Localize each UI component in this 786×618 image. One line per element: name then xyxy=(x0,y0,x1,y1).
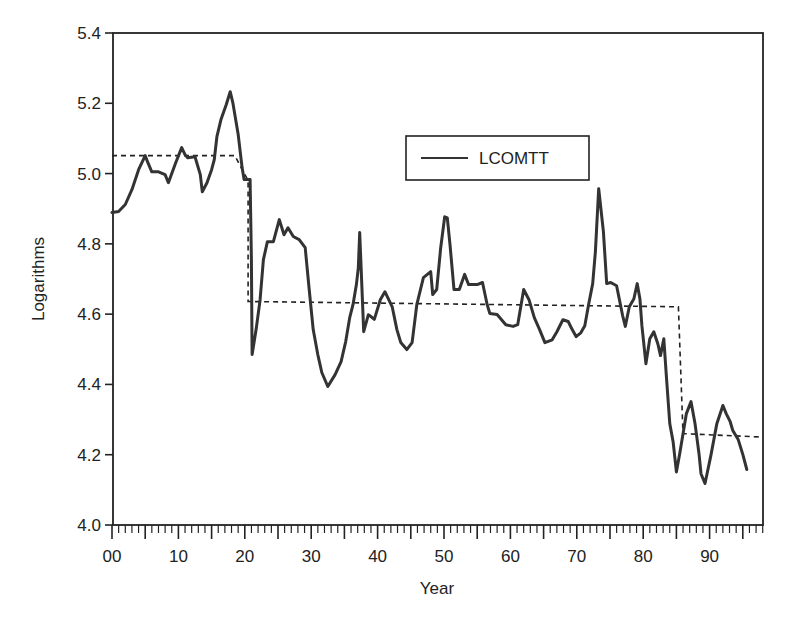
y-tick-label: 4.2 xyxy=(77,446,101,465)
x-tick-label: 70 xyxy=(567,547,586,566)
dashed-step-series xyxy=(112,156,763,438)
y-axis: 4.04.24.44.64.85.05.25.4 xyxy=(77,24,113,535)
legend-label: LCOMTT xyxy=(479,149,549,168)
y-tick-label: 4.6 xyxy=(77,305,101,324)
x-axis-title: Year xyxy=(420,579,455,598)
x-tick-label: 50 xyxy=(435,547,454,566)
x-tick-label: 80 xyxy=(634,547,653,566)
y-tick-label: 5.4 xyxy=(77,24,101,43)
y-tick-label: 4.4 xyxy=(77,375,101,394)
x-axis: 00102030405060708090 xyxy=(103,525,763,566)
x-tick-label: 60 xyxy=(501,547,520,566)
x-tick-label: 10 xyxy=(169,547,188,566)
y-tick-label: 4.0 xyxy=(77,516,101,535)
x-tick-label: 90 xyxy=(700,547,719,566)
line-chart: 4.04.24.44.64.85.05.25.4 001020304050607… xyxy=(0,0,786,618)
y-tick-label: 5.2 xyxy=(77,94,101,113)
legend: LCOMTT xyxy=(406,136,589,180)
y-tick-label: 4.8 xyxy=(77,235,101,254)
x-tick-label: 20 xyxy=(235,547,254,566)
x-tick-label: 30 xyxy=(302,547,321,566)
x-tick-label: 00 xyxy=(103,547,122,566)
x-tick-label: 40 xyxy=(368,547,387,566)
y-tick-label: 5.0 xyxy=(77,165,101,184)
y-axis-title: Logarithms xyxy=(29,237,48,321)
